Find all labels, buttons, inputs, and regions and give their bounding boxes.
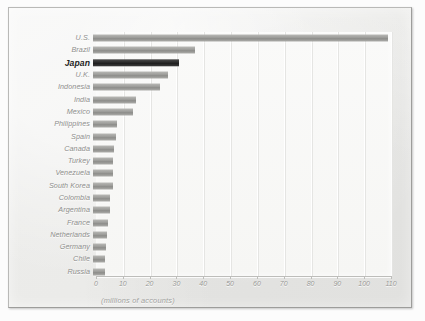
bar-row: Germany (9, 241, 391, 253)
bar-category-label: Japan (9, 59, 93, 67)
bar-track (93, 118, 391, 130)
bar-track (93, 241, 391, 253)
bar (93, 158, 113, 165)
bar-category-label: Venezuela (9, 169, 93, 177)
chart-plate: U.S.BrazilJapanU.K.IndonesiaIndiaMexicoP… (8, 7, 412, 308)
bar (93, 182, 113, 189)
x-tick-label: 110 (385, 280, 396, 287)
bar (93, 195, 110, 202)
bar-row: Mexico (9, 106, 391, 118)
bar-row: Chile (9, 253, 391, 265)
bar-track (93, 155, 391, 167)
bar-track (93, 180, 391, 192)
bar-row: Netherlands (9, 229, 391, 241)
x-tick (230, 276, 231, 279)
bar-row: Colombia (9, 192, 391, 204)
bar-track (93, 192, 391, 204)
bar (93, 96, 136, 103)
bar-row: Spain (9, 130, 391, 142)
x-tick-label: 100 (358, 280, 370, 287)
bar (93, 121, 117, 128)
bar-track (93, 44, 391, 56)
bar-category-label: Mexico (9, 108, 93, 116)
x-tick-label: 0 (94, 280, 98, 287)
bar-track (93, 69, 391, 81)
x-tick-label: 40 (199, 280, 207, 287)
bar (93, 256, 105, 263)
bar (93, 47, 195, 54)
bar-category-label: U.S. (9, 34, 93, 42)
bar-track (93, 81, 391, 93)
bar-category-label: Canada (9, 145, 93, 153)
x-tick (257, 276, 258, 279)
bar-category-label: Indonesia (9, 83, 93, 91)
bar-track (93, 32, 391, 44)
bar (93, 231, 107, 238)
bar-track (93, 204, 391, 216)
bar-track (93, 106, 391, 118)
bar-category-label: Argentina (9, 206, 93, 214)
bar (93, 268, 105, 275)
bar (93, 35, 388, 42)
bar-rows: U.S.BrazilJapanU.K.IndonesiaIndiaMexicoP… (9, 32, 391, 276)
x-tick (203, 276, 204, 279)
x-tick-label: 60 (253, 280, 261, 287)
bar-track (93, 216, 391, 228)
x-tick (337, 276, 338, 279)
x-axis-title: (millions of accounts) (101, 296, 175, 305)
bar-track (93, 253, 391, 265)
x-tick (284, 276, 285, 279)
bar (93, 219, 108, 226)
x-tick (123, 276, 124, 279)
x-tick (150, 276, 151, 279)
bar-category-label: U.K. (9, 71, 93, 79)
bar-category-label: Colombia (9, 194, 93, 202)
bar (93, 133, 116, 140)
x-tick-label: 50 (226, 280, 234, 287)
bar-category-label: India (9, 96, 93, 104)
figure-frame: U.S.BrazilJapanU.K.IndonesiaIndiaMexicoP… (0, 0, 425, 321)
bar-category-label: Russia (9, 268, 93, 276)
bar-row: South Korea (9, 180, 391, 192)
gridline (391, 32, 393, 276)
bar-category-label: Chile (9, 255, 93, 263)
bar (93, 108, 133, 115)
bar-track (93, 229, 391, 241)
bar-row: Argentina (9, 204, 391, 216)
x-tick-label: 90 (333, 280, 341, 287)
bar-row: India (9, 93, 391, 105)
bar-category-label: Germany (9, 243, 93, 251)
bar (93, 59, 179, 66)
bar (93, 84, 160, 91)
bar-category-label: Brazil (9, 46, 93, 54)
bar-category-label: Netherlands (9, 231, 93, 239)
bar-row: U.K. (9, 69, 391, 81)
x-tick (364, 276, 365, 279)
bar-category-label: South Korea (9, 182, 93, 190)
bar-row: France (9, 216, 391, 228)
x-tick-label: 80 (307, 280, 315, 287)
bar-category-label: Turkey (9, 157, 93, 165)
x-tick (311, 276, 312, 279)
x-tick-label: 30 (173, 280, 181, 287)
bar-track (93, 167, 391, 179)
bar-category-label: France (9, 219, 93, 227)
bar-row: Philippines (9, 118, 391, 130)
bar-track (93, 130, 391, 142)
x-tick-label: 70 (280, 280, 288, 287)
bar-row: Turkey (9, 155, 391, 167)
bar-row: Japan (9, 57, 391, 69)
x-tick (176, 276, 177, 279)
bar-category-label: Philippines (9, 120, 93, 128)
bar-row: Venezuela (9, 167, 391, 179)
bar-row: Brazil (9, 44, 391, 56)
bar (93, 244, 106, 251)
bar (93, 207, 110, 214)
bar-row: U.S. (9, 32, 391, 44)
x-tick-label: 10 (119, 280, 127, 287)
bar-track (93, 143, 391, 155)
x-axis-line (96, 276, 392, 277)
bar-category-label: Spain (9, 133, 93, 141)
bar-row: Indonesia (9, 81, 391, 93)
bar-row: Canada (9, 143, 391, 155)
